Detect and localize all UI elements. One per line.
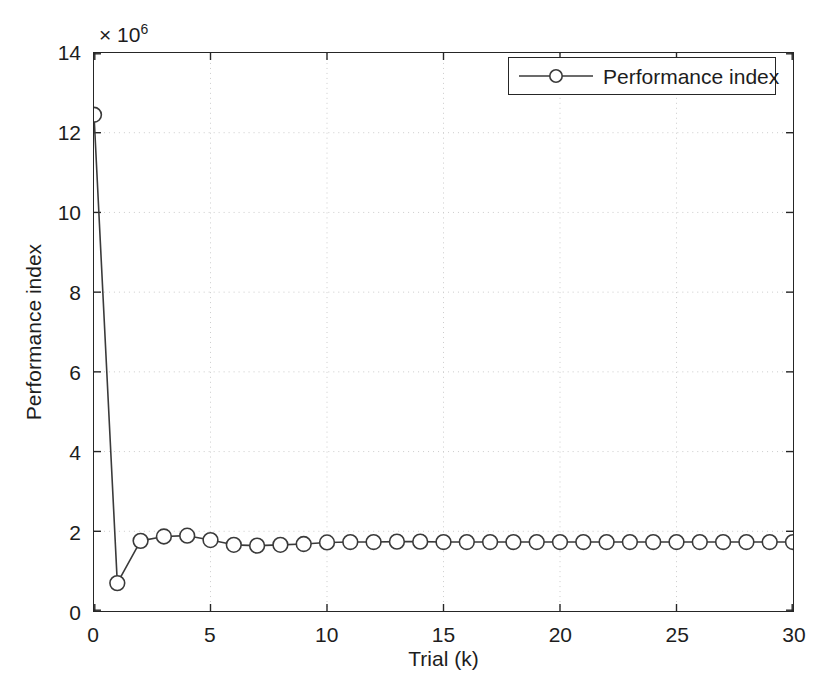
x-tick-label: 30 [782,624,805,645]
y-tick-label: 6 [69,362,81,383]
x-tick-label: 0 [87,624,99,645]
chart-figure: × 106 Performance index 02468101214 0510… [0,0,825,689]
x-tick-label: 25 [665,624,688,645]
y-tick-label: 12 [58,122,81,143]
x-tick-label: 10 [315,624,338,645]
legend-marker-icon [517,66,595,86]
legend: Performance index [508,57,776,95]
y-tick-label: 0 [69,602,81,623]
exponent-power: 6 [140,21,148,37]
plot-canvas [94,53,793,611]
grid-lines [94,53,793,611]
legend-label: Performance index [603,66,779,87]
x-tick-label: 20 [549,624,572,645]
x-tick-label: 5 [204,624,216,645]
y-tick-label: 10 [58,202,81,223]
data-series [94,107,793,590]
y-axis-exponent-label: × 106 [99,22,148,45]
y-axis-title: Performance index [18,52,50,612]
y-tick-label: 8 [69,282,81,303]
x-tick-label: 15 [432,624,455,645]
x-axis-title: Trial (k) [93,648,794,669]
y-tick-label: 14 [58,42,81,63]
plot-area [93,52,794,612]
y-tick-label: 2 [69,522,81,543]
exponent-prefix: × 10 [99,23,140,46]
y-tick-label: 4 [69,442,81,463]
